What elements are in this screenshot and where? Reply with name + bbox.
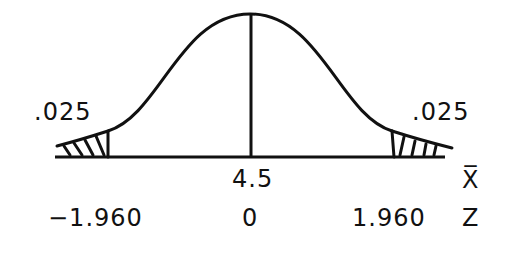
mean-label: 4.5 [232, 165, 273, 193]
xbar-axis-label: X̅ [462, 166, 479, 194]
z-left-label: −1.960 [48, 204, 143, 232]
left-tail-hatch [57, 131, 108, 157]
left-tail-area-label: .025 [34, 98, 91, 126]
z-center-label: 0 [242, 204, 258, 232]
right-tail-hatch [392, 131, 452, 157]
z-axis-label: Z [462, 204, 479, 232]
right-tail-area-label: .025 [412, 98, 469, 126]
z-right-label: 1.960 [352, 204, 426, 232]
